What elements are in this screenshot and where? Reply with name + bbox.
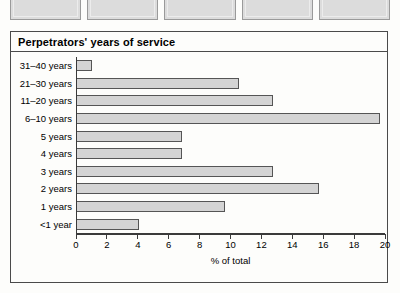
y-axis-label: 21–30 years	[11, 75, 75, 93]
y-axis-label: 4 years	[11, 145, 75, 163]
x-axis-tick-label: 12	[256, 239, 267, 250]
bar[interactable]	[77, 78, 239, 89]
x-axis-tick-label: 16	[318, 239, 329, 250]
bar[interactable]	[77, 148, 182, 159]
x-axis-tick-labels: 02468101214161820	[76, 239, 385, 252]
bar[interactable]	[77, 201, 225, 212]
y-axis-label: 1 years	[11, 198, 75, 216]
bar[interactable]	[77, 219, 139, 230]
bar-row	[77, 110, 385, 128]
y-axis-label: 6–10 years	[11, 110, 75, 128]
x-axis-tick-label: 8	[197, 239, 202, 250]
x-axis-tick-label: 10	[225, 239, 236, 250]
bar-row	[77, 163, 385, 181]
y-axis-label: <1 year	[11, 215, 75, 233]
x-axis-tick-label: 4	[135, 239, 140, 250]
y-axis-label: 31–40 years	[11, 57, 75, 75]
bar-row	[77, 75, 385, 93]
thumbnail-item[interactable]	[164, 0, 235, 20]
thumbnail-item[interactable]	[242, 0, 313, 20]
y-axis-label: 5 years	[11, 127, 75, 145]
thumbnail-strip	[0, 0, 400, 20]
chart-title-bar: Perpetrators' years of service	[11, 32, 387, 52]
bar-row	[77, 57, 385, 75]
thumbnail-item[interactable]	[10, 0, 81, 20]
x-axis-tick-label: 20	[380, 239, 391, 250]
bar[interactable]	[77, 183, 319, 194]
bar[interactable]	[77, 113, 380, 124]
plot-area	[76, 57, 385, 233]
y-axis-label: 3 years	[11, 163, 75, 181]
bar-row	[77, 145, 385, 163]
plot-wrapper: 31–40 years21–30 years11–20 years6–10 ye…	[11, 52, 387, 282]
bar-row	[77, 180, 385, 198]
bar[interactable]	[77, 95, 273, 106]
bar[interactable]	[77, 166, 273, 177]
x-axis-tick-label: 14	[287, 239, 298, 250]
page-title: Perpetrators' years of service	[18, 36, 175, 48]
y-axis-label: 11–20 years	[11, 92, 75, 110]
x-axis-tick-label: 2	[104, 239, 109, 250]
x-axis-tick-label: 0	[73, 239, 78, 250]
x-axis-tick-label: 6	[166, 239, 171, 250]
bar-row	[77, 215, 385, 233]
bar-row	[77, 92, 385, 110]
bar-row	[77, 127, 385, 145]
chart-panel: Perpetrators' years of service 31–40 yea…	[10, 31, 388, 283]
bar-series	[77, 57, 385, 233]
bar[interactable]	[77, 60, 92, 71]
x-axis-tick-label: 18	[349, 239, 360, 250]
x-axis-title: % of total	[76, 255, 385, 266]
thumbnail-item[interactable]	[319, 0, 390, 20]
y-axis-labels: 31–40 years21–30 years11–20 years6–10 ye…	[11, 57, 75, 233]
thumbnail-item[interactable]	[87, 0, 158, 20]
bar[interactable]	[77, 131, 182, 142]
bar-row	[77, 198, 385, 216]
y-axis-label: 2 years	[11, 180, 75, 198]
